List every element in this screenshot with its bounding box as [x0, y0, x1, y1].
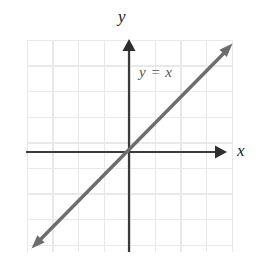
graph-figure: y x y = x — [0, 0, 258, 257]
coordinate-plane-svg — [0, 0, 258, 257]
x-axis-arrowhead — [215, 146, 227, 159]
x-axis-label: x — [237, 142, 245, 159]
equation-annotation: y = x — [139, 64, 172, 81]
line-y-equals-x — [32, 44, 233, 249]
y-axis-label: y — [118, 8, 126, 25]
